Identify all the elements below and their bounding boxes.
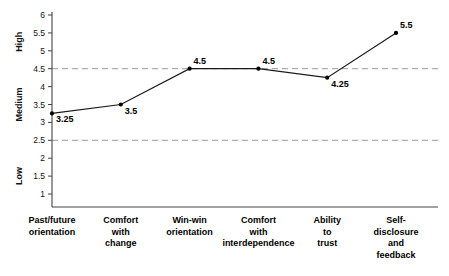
- data-point-marker: [394, 31, 398, 35]
- y-tick-label: 1: [40, 189, 45, 199]
- line-chart: 65.554.543.532.521.51 HighMediumLow 3.25…: [0, 0, 449, 276]
- y-tick-label: 4: [40, 82, 45, 92]
- series-line: [52, 33, 396, 114]
- chart-container: 65.554.543.532.521.51 HighMediumLow 3.25…: [0, 0, 449, 276]
- y-tick-label: 3: [40, 117, 45, 127]
- x-axis-category-label-line: interdependence: [222, 238, 294, 248]
- y-tick-label: 1.5: [33, 171, 45, 181]
- data-point-label: 3.5: [125, 106, 138, 116]
- reference-lines-group: [52, 69, 438, 141]
- x-axis-category-label: Past/futureorientation: [28, 215, 75, 237]
- y-tick-label: 4.5: [33, 64, 45, 74]
- x-axis-category-label-line: feedback: [376, 250, 416, 260]
- data-point-label: 3.25: [56, 114, 74, 124]
- data-point-label: 4.25: [331, 79, 349, 89]
- data-point-marker: [256, 67, 260, 71]
- y-tick-label: 6: [40, 10, 45, 20]
- data-point-marker: [50, 111, 54, 115]
- x-axis-category-label-line: orientation: [166, 227, 213, 237]
- y-axis-ticks-group: 65.554.543.532.521.51: [33, 10, 52, 199]
- x-axis-category-label-line: Past/future: [28, 215, 75, 225]
- y-tick-label: 5.5: [33, 28, 45, 38]
- x-axis-category-label-line: with: [248, 227, 267, 237]
- x-axis-category-label-line: to: [323, 227, 332, 237]
- data-point-label: 4.5: [194, 56, 207, 66]
- x-axis-category-label: Self-disclosureandfeedback: [373, 215, 418, 260]
- y-tick-label: 2.5: [33, 135, 45, 145]
- x-axis-category-label-line: disclosure: [373, 227, 418, 237]
- x-axis-category-label-line: Comfort: [103, 215, 138, 225]
- y-band-label-low: Low: [14, 166, 24, 185]
- data-point-label: 5.5: [400, 20, 413, 30]
- y-tick-label: 3.5: [33, 100, 45, 110]
- data-point-labels-group: 3.253.54.54.54.255.5: [56, 20, 413, 125]
- x-axis-category-label-line: Win-win: [172, 215, 206, 225]
- data-point-marker: [188, 67, 192, 71]
- x-axis-category-label-line: with: [111, 227, 130, 237]
- x-axis-category-label: Win-winorientation: [166, 215, 213, 237]
- y-band-label-high: High: [14, 32, 24, 52]
- x-axis-category-label-line: Ability: [313, 215, 341, 225]
- data-point-markers-group: [50, 31, 398, 116]
- x-axis-category-label-line: Self-: [386, 215, 406, 225]
- x-axis-category-label: Comfortwithchange: [103, 215, 138, 248]
- x-axis-category-label-line: change: [105, 238, 137, 248]
- x-axis-category-label-line: trust: [317, 238, 337, 248]
- data-point-marker: [325, 76, 329, 80]
- x-axis-category-label-line: Comfort: [241, 215, 276, 225]
- y-band-label-medium: Medium: [14, 87, 24, 121]
- x-axis-category-label-line: orientation: [29, 227, 76, 237]
- y-tick-label: 2: [40, 153, 45, 163]
- axes-group: [52, 12, 438, 207]
- data-point-label: 4.5: [262, 56, 275, 66]
- x-axis-category-label: Abilitytotrust: [313, 215, 341, 248]
- x-axis-category-label-line: and: [388, 238, 404, 248]
- x-axis-category-label: Comfortwithinterdependence: [222, 215, 294, 248]
- x-axis-category-labels-group: Past/futureorientationComfortwithchangeW…: [28, 215, 418, 260]
- data-point-marker: [119, 102, 123, 106]
- y-tick-label: 5: [40, 46, 45, 56]
- band-labels-group: HighMediumLow: [14, 32, 24, 185]
